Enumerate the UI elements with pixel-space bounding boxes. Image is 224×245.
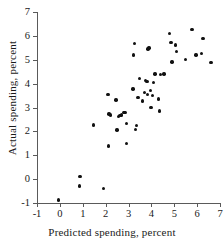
data-point (78, 175, 81, 178)
data-point (141, 99, 144, 102)
x-axis-tick (60, 203, 61, 207)
data-point (131, 87, 134, 90)
data-point (114, 98, 117, 101)
data-point (209, 61, 212, 64)
x-axis-tick (174, 203, 175, 207)
x-axis-tick-label: 6 (187, 208, 207, 220)
y-axis-tick (33, 179, 37, 180)
data-point (132, 53, 135, 56)
data-point (153, 72, 156, 75)
y-axis-label: Actual spending, percent (6, 28, 18, 168)
x-axis-tick (83, 203, 84, 207)
x-axis-tick (129, 203, 130, 207)
y-axis-tick-label: 2 (8, 125, 30, 137)
y-axis-tick (33, 108, 37, 109)
data-point (123, 111, 126, 114)
data-point (145, 80, 148, 83)
y-axis-tick-label: 0 (8, 173, 30, 185)
data-point (170, 60, 173, 63)
x-axis-tick (220, 203, 221, 207)
plot-area (37, 12, 220, 203)
data-point (106, 93, 109, 96)
y-axis-tick (33, 36, 37, 37)
data-point (190, 28, 193, 31)
x-axis-tick-label: 5 (164, 208, 184, 220)
data-point (169, 41, 172, 44)
x-axis-tick-label: 0 (50, 208, 70, 220)
data-point (136, 96, 139, 99)
y-axis-line (37, 12, 38, 203)
data-point (107, 144, 110, 147)
data-point (146, 93, 149, 96)
y-axis-tick (33, 131, 37, 132)
x-axis-tick-label: 2 (96, 208, 116, 220)
data-point (115, 128, 118, 131)
y-axis-tick-label: 4 (8, 78, 30, 90)
y-axis-tick-label: 5 (8, 54, 30, 66)
data-point (133, 42, 136, 45)
x-axis-tick (151, 203, 152, 207)
data-point (149, 106, 152, 109)
data-point (109, 113, 112, 116)
x-axis-tick-label: 4 (141, 208, 161, 220)
data-point (149, 89, 152, 92)
data-point (194, 53, 197, 56)
scatter-chart-figure: Predicted spending, percent Actual spend… (0, 0, 224, 245)
y-axis-tick (33, 203, 37, 204)
data-point (78, 184, 81, 187)
x-axis-tick (106, 203, 107, 207)
y-axis-tick-label: 3 (8, 102, 30, 114)
data-point (157, 97, 160, 100)
x-axis-tick (197, 203, 198, 207)
x-axis-tick (37, 203, 38, 207)
y-axis-tick (33, 12, 37, 13)
x-axis-tick-label: 7 (210, 208, 224, 220)
y-axis-tick-label: 1 (8, 149, 30, 161)
y-axis-tick-label: 7 (8, 6, 30, 18)
data-point (174, 43, 177, 46)
y-axis-tick-label: 6 (8, 30, 30, 42)
data-point (158, 109, 161, 112)
data-point (147, 46, 150, 49)
x-axis-label: Predicted spending, percent (0, 226, 224, 238)
y-axis-tick (33, 60, 37, 61)
x-axis-tick-label: -1 (27, 208, 47, 220)
y-axis-tick (33, 155, 37, 156)
data-point (162, 72, 165, 75)
y-axis-tick-label: -1 (8, 197, 30, 209)
x-axis-tick-label: 1 (73, 208, 93, 220)
data-point (201, 37, 204, 40)
y-axis-tick (33, 84, 37, 85)
x-axis-tick-label: 3 (119, 208, 139, 220)
